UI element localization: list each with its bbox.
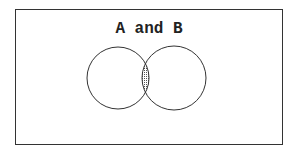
set-b-circle bbox=[142, 46, 206, 110]
venn-diagram bbox=[0, 0, 298, 154]
set-a-circle bbox=[87, 47, 149, 109]
